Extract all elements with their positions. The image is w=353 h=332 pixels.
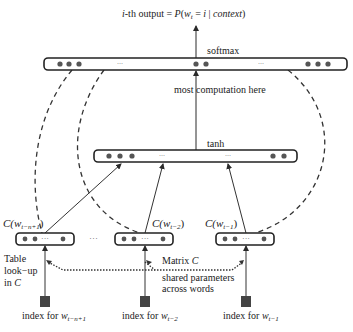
matrix-c-label: Matrix C [162,255,198,266]
softmax-layer [44,58,347,70]
matrix-text: Matrix [162,255,192,266]
tanh-layer [94,150,297,162]
label-sub: t−n+1 [21,223,39,231]
embedding-label-1: C(wt−n+1) [3,218,43,233]
input-label-2: index for wt−2 [122,310,178,325]
tanh-label: tanh [207,138,224,149]
between-embeddings-ellipsis: ··· [89,233,98,244]
label-close: ) [181,217,185,229]
title-w: w [184,8,191,19]
label-C: C( [152,217,163,229]
embedding-label-3: C(wt−1) [205,218,237,233]
title-close: ) [242,8,245,19]
embedding-label-2: C(wt−2) [152,218,184,233]
index-text: index for [22,310,61,321]
input-square-2 [140,296,150,307]
C-var: C [192,255,199,266]
w-sub: t−1 [269,315,279,323]
shared-params-line1: shared parameters [162,272,234,283]
title-text: -th output = [125,8,175,19]
shared-params-line2: across words [162,283,214,294]
tanh-ellipsis-left: ... [159,148,165,159]
softmax-label: softmax [207,45,239,56]
output-title: i-th output = P(wt = i | context) [122,8,245,23]
table-lookup-line1: Table [4,253,26,264]
input-square-1 [40,296,50,307]
label-close: ) [234,217,238,229]
index-text: index for [122,310,161,321]
input-label-3: index for wt−1 [223,310,279,325]
embedding3-ellipsis: ··· [242,233,250,244]
label-C: C( [205,217,216,229]
neural-language-model-diagram: i-th output = P(wt = i | context) softma… [0,0,353,332]
label-sub: t−2 [170,223,180,231]
w-sub: t−2 [168,315,178,323]
softmax-ellipsis-right: ... [258,56,264,67]
C-var: C [14,277,21,288]
index-text: index for [223,310,262,321]
dashed-arc-outer-left [35,70,72,233]
title-eq: = [193,8,204,19]
input-square-3 [241,296,251,307]
label-sub: t−1 [223,223,233,231]
w-sub: t−n+1 [68,315,86,323]
softmax-ellipsis-left: ... [117,56,123,67]
title-context: context [213,8,242,19]
embedding1-ellipsis: ··· [41,233,49,244]
most-computation-label: most computation here [174,84,266,95]
w-var: w [61,310,68,321]
w-var: w [262,310,269,321]
embedding2-ellipsis: ··· [141,233,149,244]
table-lookup-line2: look−up [4,265,37,276]
tanh-ellipsis-right: ... [225,148,231,159]
embedding1-to-hidden-arrow [45,164,121,233]
w-var: w [161,310,168,321]
input-label-1: index for wt−n+1 [22,310,86,325]
in-text: in [4,277,14,288]
label-C: C( [3,217,14,229]
label-close: ) [40,217,44,229]
table-lookup-line3: in C [4,277,21,288]
